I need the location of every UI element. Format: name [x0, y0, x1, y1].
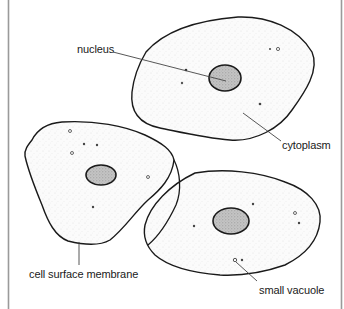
- vacuole-dot: [92, 206, 94, 208]
- bottom-right-cell: [144, 160, 320, 275]
- bottom-right-cell-nucleus: [213, 208, 249, 234]
- left-cell-nucleus: [86, 165, 116, 185]
- cell-surface-membrane-label: cell surface membrane: [29, 268, 138, 280]
- nucleus-label: nucleus: [77, 43, 114, 55]
- vacuole-dot: [252, 203, 254, 205]
- top-cell: [132, 17, 314, 140]
- small-vacuole-label: small vacuole: [259, 284, 324, 296]
- vacuole-dot: [259, 103, 262, 106]
- vacuole-dot: [96, 144, 98, 146]
- vacuole-dot: [83, 143, 85, 145]
- cytoplasm-label: cytoplasm: [282, 139, 331, 151]
- animal-cells-diagram: [0, 0, 344, 309]
- vacuole-dot: [298, 222, 300, 224]
- vacuole-dot: [269, 48, 271, 50]
- diagram-frame: nucleus cytoplasm cell surface membrane …: [0, 0, 344, 309]
- vacuole-dot: [193, 225, 195, 227]
- vacuole-dot: [181, 82, 183, 84]
- vacuole-dot: [241, 259, 243, 261]
